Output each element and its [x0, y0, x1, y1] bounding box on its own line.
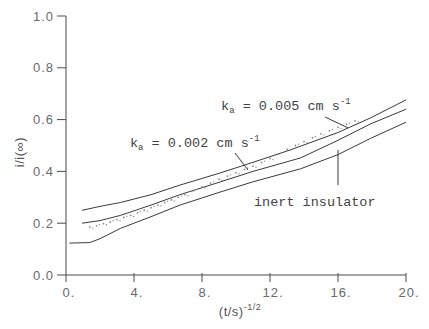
axes: 0.00.20.40.60.81.0 0.4.8.12.16.20. [33, 9, 420, 301]
annotation-label: inert insulator [254, 195, 376, 210]
data-point [329, 130, 331, 132]
data-point [346, 123, 348, 125]
data-point [140, 211, 141, 212]
y-tick-label: 0.4 [33, 164, 54, 179]
annotation-text: inert insulator [254, 195, 376, 210]
annotation-text: = 0.002 cm s [143, 136, 248, 151]
x-tick-label: 0. [63, 285, 76, 300]
annotation-superscript: -1 [340, 97, 351, 107]
data-point [221, 179, 222, 180]
data-point [126, 216, 127, 217]
data-point [340, 128, 341, 129]
data-point [157, 204, 159, 206]
data-point [184, 194, 186, 196]
data-point [227, 175, 229, 177]
data-point [150, 207, 152, 209]
data-point [235, 172, 237, 174]
data-point [109, 221, 111, 223]
annotation-leader-line [325, 117, 348, 128]
data-point [281, 152, 282, 153]
chart-figure: 0.00.20.40.60.81.0 0.4.8.12.16.20. i/i(∞… [0, 0, 429, 329]
series-layer [69, 100, 406, 243]
series-k-a-0-005-cm-s-1 [82, 100, 406, 210]
data-point [123, 217, 125, 219]
data-point [116, 219, 118, 221]
data-point [315, 136, 316, 137]
data-point [244, 168, 246, 170]
data-point [298, 144, 299, 145]
data-point [171, 199, 173, 201]
annotation-symbol: k [130, 136, 138, 151]
y-axis-title: i/i(∞) [12, 137, 27, 167]
data-point [238, 173, 239, 174]
data-point [218, 178, 220, 180]
x-axis-title-superscript: -1/2 [244, 302, 262, 312]
data-point [89, 226, 91, 228]
data-point [306, 142, 307, 143]
data-point [230, 174, 231, 175]
data-point [153, 206, 154, 207]
data-point [252, 165, 254, 167]
data-point [278, 153, 280, 155]
data-point [303, 141, 305, 143]
data-point [177, 196, 179, 198]
data-point [137, 212, 139, 214]
data-point [295, 145, 297, 147]
data-point [201, 186, 203, 188]
data-point [261, 161, 263, 163]
data-point [167, 201, 168, 202]
data-point [286, 148, 288, 150]
data-point [349, 122, 350, 123]
y-axis-ticks: 0.00.20.40.60.81.0 [33, 9, 66, 283]
x-axis-title-base: (t/s) [219, 304, 244, 319]
data-point [269, 158, 271, 160]
data-point [143, 209, 145, 211]
chart-plot: 0.00.20.40.60.81.0 0.4.8.12.16.20. i/i(∞… [0, 0, 429, 329]
data-point [337, 126, 339, 128]
y-tick-label: 1.0 [33, 9, 54, 24]
x-tick-label: 4. [131, 285, 144, 300]
x-tick-label: 16. [330, 285, 351, 300]
annotation-text: = 0.005 cm s [235, 99, 340, 114]
data-point [323, 134, 324, 135]
data-point [332, 129, 333, 130]
data-point [133, 216, 134, 217]
y-tick-label: 0.8 [33, 60, 54, 75]
data-point [193, 190, 195, 192]
annotation-ka-0002: ka = 0.002 cm s-1 [130, 134, 260, 170]
data-point [113, 220, 114, 221]
x-axis-ticks: 0.4.8.12.16.20. [63, 273, 420, 300]
annotation-inert-insulator: inert insulator [254, 150, 376, 210]
data-point [147, 211, 148, 212]
annotation-symbol: k [221, 99, 229, 114]
data-point [272, 159, 273, 160]
y-tick-label: 0.6 [33, 112, 54, 127]
x-tick-label: 12. [262, 285, 283, 300]
data-point [103, 223, 105, 225]
data-point [354, 120, 356, 122]
data-point [96, 225, 98, 227]
annotation-ka-0005: ka = 0.005 cm s-1 [221, 97, 351, 128]
data-point [210, 182, 212, 184]
data-point [119, 220, 120, 221]
data-point [213, 181, 214, 182]
annotation-layer: ka = 0.005 cm s-1 ka = 0.002 cm s-1 iner… [130, 97, 376, 210]
data-point [99, 224, 100, 225]
x-tick-label: 20. [398, 285, 419, 300]
data-point [255, 167, 256, 168]
data-point [204, 187, 205, 188]
annotation-superscript: -1 [249, 134, 260, 144]
data-point [196, 189, 197, 190]
data-point [92, 227, 93, 228]
x-axis-title: (t/s)-1/2 [219, 302, 261, 319]
data-point [160, 205, 161, 206]
data-point [289, 150, 290, 151]
data-point [181, 195, 182, 196]
y-tick-label: 0.2 [33, 216, 54, 231]
data-point [312, 137, 314, 139]
annotation-label: ka = 0.002 cm s-1 [130, 134, 260, 153]
data-point [106, 224, 107, 225]
data-point [164, 202, 166, 204]
data-point [174, 200, 175, 201]
data-point [357, 121, 358, 122]
